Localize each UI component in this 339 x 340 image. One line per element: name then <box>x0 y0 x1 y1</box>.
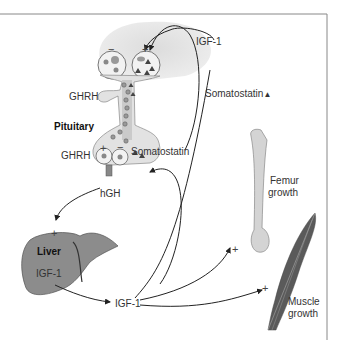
diagram-graphics <box>0 0 339 340</box>
muscle-growth-label-1: Muscle <box>288 296 320 307</box>
liver-label: Liver <box>37 246 61 257</box>
femur-plus-sign: + <box>232 244 238 255</box>
muscle-growth-label-2: growth <box>288 308 318 319</box>
somatostatin-mid-label: Somatostatin <box>131 146 189 157</box>
femur <box>251 129 269 252</box>
somatostatin-right-label: Somatostatin▲ <box>205 88 271 100</box>
pituitary-label: Pituitary <box>54 121 94 132</box>
triangle-icon: ▲ <box>263 90 271 99</box>
hypothalamus <box>98 22 211 80</box>
muscle-plus-sign: + <box>262 283 268 294</box>
pit-minus-sign: − <box>117 142 123 153</box>
igf1-center-label: IGF-1 <box>115 298 141 309</box>
liver-plus-sign: + <box>51 228 57 239</box>
ghrh-upper-label: GHRH <box>69 91 98 102</box>
hypo-plus-sign: + <box>142 44 148 55</box>
hgh-release <box>106 165 112 176</box>
hypo-minus-sign: − <box>108 44 114 55</box>
femur-growth-label-1: Femur <box>270 175 299 186</box>
somatostatin-right-text: Somatostatin <box>205 88 263 99</box>
liver-igf1-label: IGF-1 <box>36 268 62 279</box>
pituitary <box>93 75 160 176</box>
igf1-top-label: IGF-1 <box>196 36 222 47</box>
ghrh-lower-label: GHRH <box>61 150 90 161</box>
hgh-label: hGH <box>100 188 121 199</box>
gh-regulation-diagram: IGF-1 Somatostatin▲ GHRH Pituitary GHRH … <box>0 0 339 340</box>
pit-plus-sign: + <box>100 143 106 154</box>
femur-growth-label-2: growth <box>268 187 298 198</box>
liver-shape <box>22 233 118 295</box>
